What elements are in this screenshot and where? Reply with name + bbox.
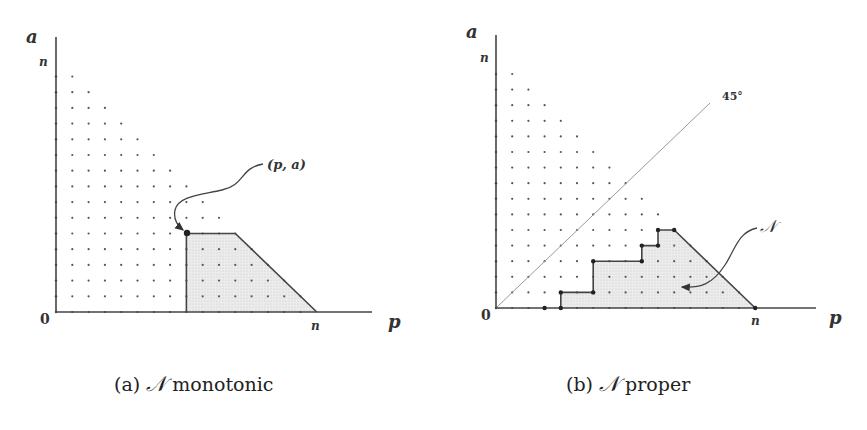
annotation-n: 𝒩 [760, 217, 782, 236]
x-axis-label: p [829, 307, 842, 328]
caption-b-text: proper [625, 373, 690, 395]
caption-a-prefix: (a) [114, 373, 140, 395]
caption-b: (b) 𝒩 proper [566, 372, 690, 397]
marked-point-pa [184, 230, 190, 236]
y-axis-label: a [466, 21, 478, 42]
annotation-pa: (p, a) [267, 157, 306, 172]
caption-a: (a) 𝒩 monotonic [114, 372, 273, 397]
figure-canvas: (p, a) a n 0 n p 𝒩 45° a n 0 n p [0, 0, 867, 430]
y-tick-n: n [39, 55, 48, 69]
x-tick-n: n [751, 314, 760, 328]
caption-a-symbol: 𝒩 [146, 372, 166, 396]
origin-label: 0 [40, 311, 50, 327]
annotation-curve [175, 164, 263, 230]
origin-label: 0 [481, 307, 491, 323]
y-tick-n: n [480, 51, 489, 65]
caption-b-symbol: 𝒩 [599, 372, 619, 396]
y-axis-label: a [26, 26, 38, 47]
diagonal-label: 45° [722, 90, 743, 103]
x-tick-n: n [311, 319, 320, 333]
caption-b-prefix: (b) [566, 373, 593, 395]
panel-b-proper: 𝒩 45° a n 0 n p [466, 21, 842, 328]
x-axis-label: p [388, 311, 401, 332]
panel-a-monotonic: (p, a) a n 0 n p [26, 26, 401, 333]
caption-a-text: monotonic [172, 373, 273, 395]
region-n-monotonic [186, 234, 316, 313]
